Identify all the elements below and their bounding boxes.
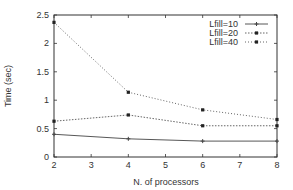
plot-border bbox=[54, 15, 277, 157]
y-tick-label: 1.5 bbox=[36, 67, 49, 77]
x-tick-label: 4 bbox=[126, 160, 131, 170]
legend-label: Lfill=40 bbox=[209, 37, 238, 47]
y-axis-label: Time (sec) bbox=[3, 65, 13, 107]
plot-frame bbox=[54, 15, 277, 157]
y-tick-label: 0 bbox=[44, 152, 49, 162]
series-lfill-20 bbox=[52, 113, 278, 127]
x-tick-label: 7 bbox=[237, 160, 242, 170]
series-lfill-40 bbox=[52, 21, 278, 121]
x-tick-label: 6 bbox=[200, 160, 205, 170]
x-axis-label: N. of processors bbox=[133, 177, 199, 187]
y-tick-label: 2.5 bbox=[36, 10, 49, 20]
series-lines bbox=[52, 21, 279, 143]
legend: Lfill=10Lfill=20Lfill=40 bbox=[209, 19, 268, 47]
legend-item: Lfill=40 bbox=[209, 37, 268, 47]
y-tick-label: 2 bbox=[44, 38, 49, 48]
x-tick-label: 3 bbox=[89, 160, 94, 170]
x-tick-label: 8 bbox=[274, 160, 279, 170]
axis-ticks: 234567800.511.522.5 bbox=[36, 10, 279, 170]
y-tick-label: 0.5 bbox=[36, 124, 49, 134]
y-tick-label: 1 bbox=[44, 95, 49, 105]
line-chart: 234567800.511.522.5 Lfill=10Lfill=20Lfil… bbox=[0, 0, 293, 190]
x-tick-label: 2 bbox=[51, 160, 56, 170]
series-lfill-10 bbox=[52, 132, 279, 143]
x-tick-label: 5 bbox=[163, 160, 168, 170]
